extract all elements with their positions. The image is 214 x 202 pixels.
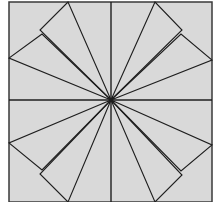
center-point xyxy=(109,98,113,102)
diagram-canvas xyxy=(0,0,214,202)
folded-square-diagram xyxy=(0,0,214,202)
